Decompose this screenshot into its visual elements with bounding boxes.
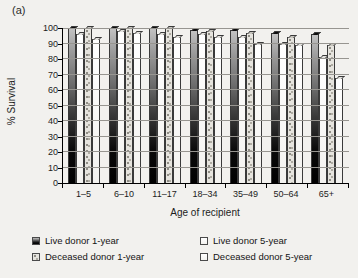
y-tick-mark	[58, 121, 62, 122]
y-tick-mark	[58, 168, 62, 169]
bar	[173, 37, 181, 183]
x-tick-mark	[307, 184, 308, 188]
gridline-90	[63, 43, 349, 44]
gridline-20	[63, 151, 349, 152]
bar	[109, 28, 117, 183]
bar	[254, 44, 262, 184]
y-tick-mark	[58, 28, 62, 29]
bars-row	[63, 28, 349, 183]
x-tick-mark	[185, 184, 186, 188]
gridline-30	[63, 136, 349, 137]
y-tick-label-80: 80	[32, 55, 58, 64]
legend-marker-icon	[32, 237, 40, 245]
bar	[198, 34, 206, 183]
y-tick-label-50: 50	[32, 102, 58, 111]
x-tick-label-6–10: 6–10	[108, 189, 141, 199]
x-tick-label-50–64: 50–64	[270, 189, 303, 199]
bar	[271, 33, 279, 183]
bar	[157, 34, 165, 183]
bar	[76, 34, 84, 183]
y-tick-mark	[58, 44, 62, 45]
x-tick-mark	[62, 184, 63, 188]
x-axis-labels: 1–56–1011–1718–3435–4950–6465+	[62, 189, 348, 199]
bar	[327, 45, 335, 183]
y-tick-mark	[58, 59, 62, 60]
x-axis-title: Age of recipient	[62, 207, 348, 218]
gridline-80	[63, 58, 349, 59]
bar-group-1–5	[68, 28, 101, 183]
legend-item-white-1: Live donor 5-year	[200, 235, 342, 246]
bar	[190, 30, 198, 183]
bar	[84, 28, 92, 183]
legend-marker-icon	[32, 253, 40, 261]
gridline-60	[63, 89, 349, 90]
gridline-40	[63, 120, 349, 121]
bar	[311, 34, 319, 183]
bar	[230, 30, 238, 183]
x-tick-label-65+: 65+	[310, 189, 343, 199]
legend-marker-icon	[200, 253, 208, 261]
y-tick-label-90: 90	[32, 40, 58, 49]
bar	[125, 28, 133, 183]
y-tick-label-30: 30	[32, 133, 58, 142]
legend-item-dark-0: Live donor 1-year	[32, 235, 200, 246]
bar-group-6–10	[109, 28, 142, 183]
bar	[149, 28, 157, 183]
gridline-50	[63, 105, 349, 106]
y-tick-mark	[58, 75, 62, 76]
bar-group-65+	[311, 34, 344, 183]
y-tick-mark	[58, 152, 62, 153]
bar-group-18–34	[190, 30, 223, 183]
bar	[68, 28, 76, 183]
y-axis-title: % Survival	[6, 32, 17, 172]
bar	[295, 45, 303, 183]
bar	[246, 33, 254, 183]
legend-item-speckled-2: Deceased donor 1-year	[32, 251, 200, 262]
x-tick-label-1–5: 1–5	[67, 189, 100, 199]
bar	[279, 44, 287, 184]
legend-label: Live donor 5-year	[213, 235, 287, 246]
y-tick-label-60: 60	[32, 86, 58, 95]
gridline-10	[63, 167, 349, 168]
x-tick-mark	[225, 184, 226, 188]
y-tick-label-40: 40	[32, 117, 58, 126]
y-tick-label-100: 100	[32, 24, 58, 33]
bar-group-35–49	[230, 30, 263, 183]
y-tick-label-20: 20	[32, 148, 58, 157]
bar	[165, 28, 173, 183]
bar-group-11–17	[149, 28, 182, 183]
bar	[206, 31, 214, 183]
legend-label: Live donor 1-year	[45, 235, 119, 246]
figure-panel-label: (a)	[12, 4, 25, 16]
gridline-70	[63, 74, 349, 75]
legend-label: Deceased donor 1-year	[45, 251, 144, 262]
y-tick-mark	[58, 90, 62, 91]
bar	[92, 39, 100, 183]
gridline-100	[63, 28, 349, 29]
y-tick-label-70: 70	[32, 71, 58, 80]
survival-bar-chart-figure: (a) % Survival 0102030405060708090100 1–…	[0, 0, 358, 278]
y-tick-mark	[58, 137, 62, 138]
bar	[133, 33, 141, 183]
bar	[117, 31, 125, 183]
plot-area	[62, 28, 349, 184]
x-tick-mark	[144, 184, 145, 188]
y-tick-label-10: 10	[32, 164, 58, 173]
bar	[287, 37, 295, 183]
x-tick-mark	[103, 184, 104, 188]
x-tick-mark	[266, 184, 267, 188]
legend-item-white-3: Deceased donor 5-year	[200, 251, 342, 262]
legend-label: Deceased donor 5-year	[213, 251, 312, 262]
legend: Live donor 1-yearLive donor 5-yearDeceas…	[32, 235, 342, 262]
x-tick-label-18–34: 18–34	[189, 189, 222, 199]
x-tick-mark	[348, 184, 349, 188]
bar	[214, 37, 222, 183]
bar-group-50–64	[271, 33, 304, 183]
y-tick-mark	[58, 106, 62, 107]
legend-marker-icon	[200, 237, 208, 245]
bar	[238, 37, 246, 183]
y-tick-label-0: 0	[32, 179, 58, 188]
x-tick-label-35–49: 35–49	[229, 189, 262, 199]
x-tick-label-11–17: 11–17	[148, 189, 181, 199]
